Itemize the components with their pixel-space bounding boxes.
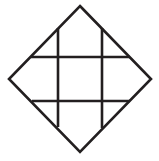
- background-rect: [0, 0, 159, 161]
- figure-canvas: [0, 0, 159, 161]
- diamond-grid-figure: [0, 0, 159, 161]
